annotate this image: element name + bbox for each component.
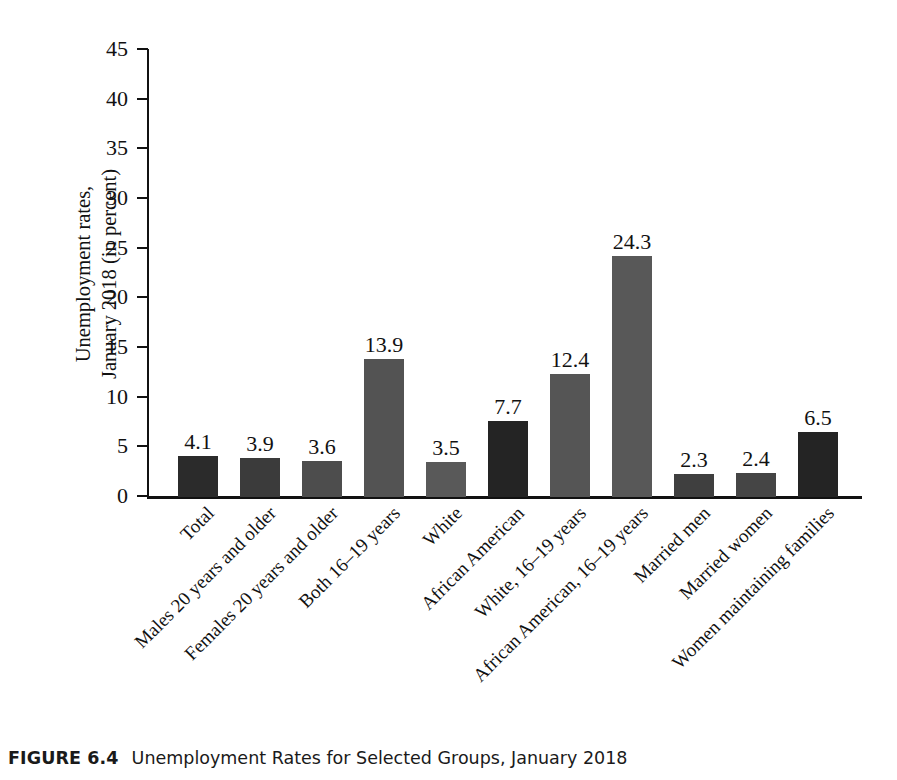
bar-value-label: 4.1 <box>184 431 212 453</box>
y-tick-15: 15 <box>137 346 148 348</box>
y-tick-mark <box>137 445 148 447</box>
y-tick-mark <box>137 197 148 199</box>
y-tick-label: 15 <box>106 336 128 358</box>
y-tick-25: 25 <box>137 247 148 249</box>
y-tick-40: 40 <box>137 98 148 100</box>
y-tick-mark <box>137 247 148 249</box>
y-tick-label: 20 <box>106 286 128 308</box>
x-axis-label-text: Total <box>177 503 218 544</box>
y-tick-0: 0 <box>137 495 148 497</box>
bar-value-label: 7.7 <box>494 396 522 418</box>
y-tick-label: 30 <box>106 187 128 209</box>
y-tick-mark <box>137 147 148 149</box>
y-tick-label: 0 <box>117 485 128 507</box>
y-tick-label: 40 <box>106 88 128 110</box>
figure-title: Unemployment Rates for Selected Groups, … <box>132 748 628 768</box>
bar-value-label: 12.4 <box>551 349 590 371</box>
y-tick-label: 5 <box>117 435 128 457</box>
figure-container: Unemployment rates,January 2018 (in perc… <box>0 0 897 780</box>
bar: 3.9 <box>240 458 280 497</box>
y-tick-label: 10 <box>106 386 128 408</box>
y-tick-mark <box>137 48 148 50</box>
x-axis-label-text: White <box>419 503 465 549</box>
bar-value-label: 3.9 <box>246 433 274 455</box>
bar-value-label: 6.5 <box>804 407 832 429</box>
y-tick-mark <box>137 495 148 497</box>
bar-value-label: 13.9 <box>365 334 404 356</box>
plot-area: Unemployment rates,January 2018 (in perc… <box>148 50 862 497</box>
y-tick-10: 10 <box>137 396 148 398</box>
x-axis-label-text: White, 16–19 years <box>471 503 589 621</box>
y-tick-label: 25 <box>106 237 128 259</box>
y-tick-mark <box>137 346 148 348</box>
y-tick-mark <box>137 296 148 298</box>
y-tick-label: 45 <box>106 38 128 60</box>
y-tick-5: 5 <box>137 445 148 447</box>
figure-number: FIGURE 6.4 <box>8 748 119 768</box>
bar: 4.1 <box>178 456 218 497</box>
y-tick-35: 35 <box>137 147 148 149</box>
y-tick-mark <box>137 98 148 100</box>
figure-caption: FIGURE 6.4Unemployment Rates for Selecte… <box>8 748 627 769</box>
bar-value-label: 24.3 <box>613 231 652 253</box>
y-tick-20: 20 <box>137 296 148 298</box>
y-tick-45: 45 <box>137 48 148 50</box>
y-axis-title-line-1: Unemployment rates, <box>70 168 96 378</box>
y-tick-mark <box>137 396 148 398</box>
y-tick-label: 35 <box>106 137 128 159</box>
y-tick-30: 30 <box>137 197 148 199</box>
